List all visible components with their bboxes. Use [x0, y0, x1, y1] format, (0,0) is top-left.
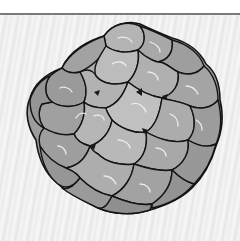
- illustration-canvas: [0, 0, 240, 241]
- capsid-subunits: [30, 23, 221, 213]
- virus-capsid-image: [0, 0, 240, 241]
